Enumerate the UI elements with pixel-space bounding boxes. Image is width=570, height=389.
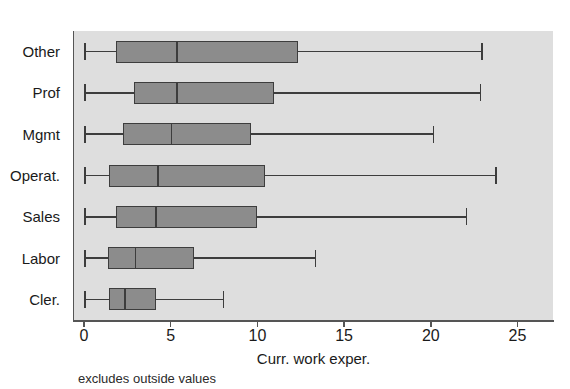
median-line: [124, 288, 126, 310]
whisker-cap-right: [223, 291, 225, 308]
x-tick-10: [257, 320, 259, 327]
x-axis-title: Curr. work exper.: [73, 350, 554, 367]
x-tick-label-10: 10: [248, 327, 266, 345]
x-tick-0: [83, 320, 85, 327]
y-axis-label-mgmt: Mgmt: [23, 126, 61, 143]
x-axis-line: [73, 320, 554, 322]
y-axis-label-cler: Cler.: [29, 291, 60, 308]
y-axis-label-prof: Prof: [32, 84, 60, 101]
whisker-left: [85, 299, 109, 301]
y-axis-label-sales: Sales: [22, 208, 60, 225]
plot-panel: [73, 31, 553, 320]
x-tick-15: [343, 320, 345, 327]
y-axis-category-labels: OtherProfMgmtOperat.SalesLaborCler.: [0, 31, 68, 320]
boxplot-figure: OtherProfMgmtOperat.SalesLaborCler. 0510…: [0, 0, 570, 389]
y-axis-label-other: Other: [22, 43, 60, 60]
x-tick-label-15: 15: [335, 327, 353, 345]
x-tick-25: [517, 320, 519, 327]
x-tick-label-0: 0: [80, 327, 89, 345]
y-axis-label-operat: Operat.: [10, 167, 60, 184]
y-axis-label-labor: Labor: [22, 250, 60, 267]
whisker-cap-left: [84, 291, 86, 308]
boxplot-row: [74, 31, 553, 320]
x-tick-20: [430, 320, 432, 327]
chart-footnote: excludes outside values: [78, 371, 216, 386]
x-tick-label-20: 20: [422, 327, 440, 345]
x-tick-label-25: 25: [509, 327, 527, 345]
whisker-right: [156, 299, 224, 301]
x-tick-label-5: 5: [166, 327, 175, 345]
box-iqr: [109, 288, 156, 310]
x-tick-5: [170, 320, 172, 327]
